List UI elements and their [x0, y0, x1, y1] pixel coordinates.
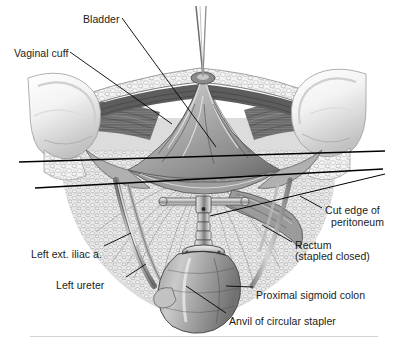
- footer-rule: [30, 336, 378, 337]
- label-left-ureter: Left ureter: [56, 280, 104, 292]
- label-left-ext-iliac-a: Left ext. iliac a.: [31, 249, 102, 261]
- label-vaginal-cuff: Vaginal cuff: [14, 48, 69, 60]
- label-cut-edge-line1: Cut edge of: [325, 205, 380, 217]
- label-proximal-sigmoid-colon: Proximal sigmoid colon: [256, 290, 365, 302]
- label-cut-edge-line2: peritoneum: [331, 217, 384, 229]
- label-bladder: Bladder: [83, 14, 120, 26]
- label-anvil-of-circular-stapler: Anvil of circular stapler: [229, 316, 336, 328]
- label-rectum-line2: (stapled closed): [295, 251, 370, 263]
